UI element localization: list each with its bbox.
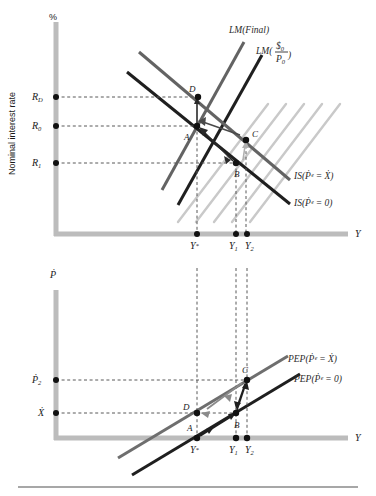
top-point-label-C: C [252,129,259,139]
bottom-point-label-C: C [242,365,249,375]
top-curve-label-is-zero: IS(Ṗᵉ = 0) [293,197,332,209]
top-point-label-A: A [183,132,190,142]
is-lm-pep-diagram: % Nominal interest rate Y RD R0 R1 Y* Y1… [0,0,376,496]
bottom-x-tick-label-Ystar: Y* [190,444,200,455]
bottom-point-D-dot [194,410,200,416]
bottom-point-label-D: D [182,402,190,412]
bottom-x-axis-title: Y [355,432,362,443]
top-y-axis-unit: % [49,12,57,22]
bottom-y-tick-label-Pdot2: Ṗ2 [31,374,42,386]
bottom-point-label-A: A [186,423,193,433]
bottom-pep-xdot-curve [118,356,288,458]
top-x-axis-title: Y [355,228,362,239]
top-x-tick-label-Y1: Y1 [229,240,238,252]
bottom-x-tick-label-Y1: Y1 [229,444,238,456]
svg-text:LM(: LM( [255,46,273,57]
top-y-axis-title: Nominal interest rate [7,92,17,175]
bottom-panel: Ṗ Y Ṗ2 Ẋ Y* Y1 Y2 D A B C PEP(Ṗᵉ [31,268,362,475]
bottom-y-axis-title: Ṗ [49,269,56,280]
svg-text:$0: $0 [276,41,285,52]
bottom-x-tick-label-Y2: Y2 [245,444,255,456]
top-x-tick-label-Y2: Y2 [245,240,255,252]
bottom-curve-label-pep-xdot: PEP(Ṗᵉ = Ẋ) [287,353,337,365]
top-curve-label-lm-final: LM(Final) [228,25,269,36]
top-point-label-D: D [188,84,196,94]
bottom-point-C-dot [244,377,250,383]
bottom-point-label-B: B [234,420,240,430]
bottom-guides [56,268,247,438]
svg-text:P0: P0 [275,54,286,65]
top-is-zero-curve [127,72,290,204]
top-x-tick-label-Ystar: Y* [190,240,200,251]
top-point-D-dot [195,94,201,100]
bottom-curve-label-pep-zero: PEP(Ṗᵉ = 0) [293,373,342,385]
bottom-pep-zero-curve [132,374,300,475]
top-panel: % Nominal interest rate Y RD R0 R1 Y* Y1… [7,12,362,252]
top-y-tick-label-RD: RD [31,91,43,103]
bottom-y-tick-label-Xdot: Ẋ [37,407,45,418]
top-lm-final-curve [162,42,244,190]
top-y-tick-label-R0: R0 [31,120,42,132]
top-y-tick-label-R1: R1 [31,157,41,169]
top-point-B-dot [233,160,239,166]
svg-text:): ) [287,50,291,61]
top-point-C-dot [243,137,249,143]
top-is-xdot-curve [139,52,290,180]
top-curve-label-lm-real-balances: LM( $0 P0 ) [255,41,291,65]
figure-container: % Nominal interest rate Y RD R0 R1 Y* Y1… [0,0,376,496]
top-point-A-dot [194,123,200,129]
bottom-point-B-dot [233,410,239,416]
top-point-label-B: B [234,169,240,179]
top-curve-label-is-xdot: IS(Ṗᵉ = Ẋ) [293,170,334,182]
